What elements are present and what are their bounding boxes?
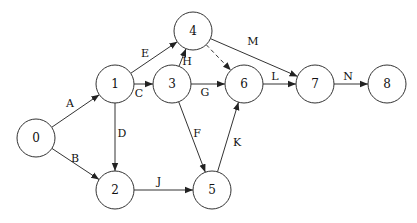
node-label: 4: [189, 24, 197, 38]
node-8: 8: [368, 65, 406, 103]
edge-label-D: D: [118, 127, 127, 140]
node-0: 0: [17, 119, 55, 157]
edge-label-L: L: [271, 70, 279, 83]
node-label: 3: [168, 77, 176, 91]
node-label: 0: [32, 131, 40, 145]
node-7: 7: [296, 65, 334, 103]
edge-label-F: F: [193, 127, 201, 140]
edge-3-5: [179, 102, 206, 172]
node-label: 2: [111, 183, 119, 197]
edge-label-J: J: [156, 175, 161, 188]
edge-0-1: [52, 95, 100, 128]
edge-label-M: M: [247, 35, 258, 48]
node-label: 8: [383, 77, 391, 91]
edge-4-6: [206, 45, 231, 71]
node-label: 7: [311, 77, 319, 91]
node-2: 2: [96, 171, 134, 209]
node-5: 5: [193, 171, 231, 209]
edge-label-E: E: [141, 47, 149, 60]
node-label: 6: [240, 77, 248, 91]
edge-label-A: A: [65, 97, 75, 110]
node-6: 6: [225, 65, 263, 103]
edge-label-H: H: [182, 55, 192, 68]
node-label: 5: [208, 183, 216, 197]
node-1: 1: [96, 65, 134, 103]
node-label: 1: [111, 77, 119, 91]
edge-label-B: B: [71, 152, 79, 165]
edge-label-C: C: [135, 87, 143, 100]
network-diagram: 012345678 ABCDEFGHJKLMN: [0, 0, 417, 223]
node-3: 3: [153, 65, 191, 103]
edge-label-N: N: [343, 70, 353, 83]
node-4: 4: [174, 12, 212, 50]
edges-layer: [52, 39, 368, 190]
edge-label-G: G: [201, 86, 210, 99]
edge-labels-layer: ABCDEFGHJKLMN: [65, 35, 353, 188]
edge-label-K: K: [233, 136, 242, 149]
